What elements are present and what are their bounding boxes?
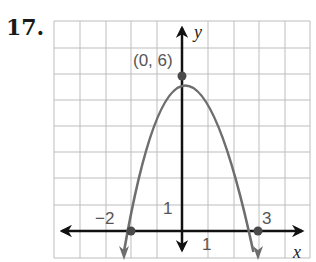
point-y-intercept [178, 72, 187, 81]
x-axis-label: x [292, 242, 301, 262]
graph: y x (0, 6) −2 3 1 1 [0, 0, 316, 262]
x-tick-label: 1 [202, 235, 211, 254]
y-tick-label: 1 [163, 199, 172, 218]
root-right-label: 3 [262, 209, 271, 228]
y-axis-label: y [192, 22, 202, 42]
root-left-label: −2 [95, 209, 114, 228]
point-root-left [127, 227, 136, 236]
y-intercept-label: (0, 6) [133, 51, 173, 70]
